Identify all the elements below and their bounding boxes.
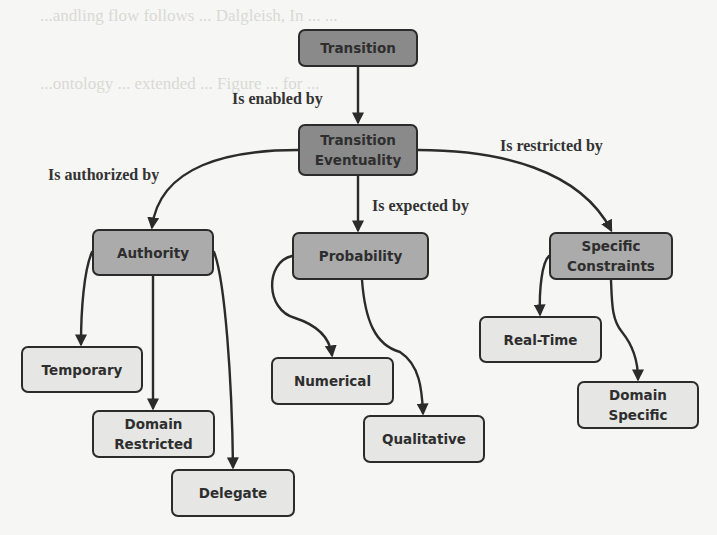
node-domain-specific: Domain Specific: [577, 381, 699, 429]
edge-label-authorized-by: Is authorized by: [48, 166, 159, 184]
node-transition-eventuality: Transition Eventuality: [298, 124, 418, 176]
edge-constraints-realtime: [540, 256, 549, 314]
node-domain-restricted: Domain Restricted: [92, 410, 215, 458]
node-delegate: Delegate: [171, 469, 295, 517]
edge-label-restricted-by: Is restricted by: [500, 137, 603, 155]
node-specific-constraints: Specific Constraints: [549, 232, 673, 280]
edge-authority-delegate: [214, 252, 233, 467]
node-qualitative: Qualitative: [363, 415, 485, 463]
node-numerical: Numerical: [271, 357, 394, 405]
node-real-time: Real-Time: [479, 316, 602, 363]
node-probability: Probability: [292, 232, 429, 280]
edge-label-enabled-by: Is enabled by: [232, 90, 323, 108]
edge-authorized-by: [152, 150, 298, 227]
edge-label-expected-by: Is expected by: [372, 197, 469, 215]
node-transition: Transition: [298, 29, 418, 67]
edge-restricted-by: [418, 150, 611, 230]
edge-constraints-domain-specific: [611, 280, 638, 379]
edge-authority-temporary: [81, 252, 92, 344]
node-temporary: Temporary: [21, 346, 143, 393]
node-authority: Authority: [92, 229, 214, 276]
